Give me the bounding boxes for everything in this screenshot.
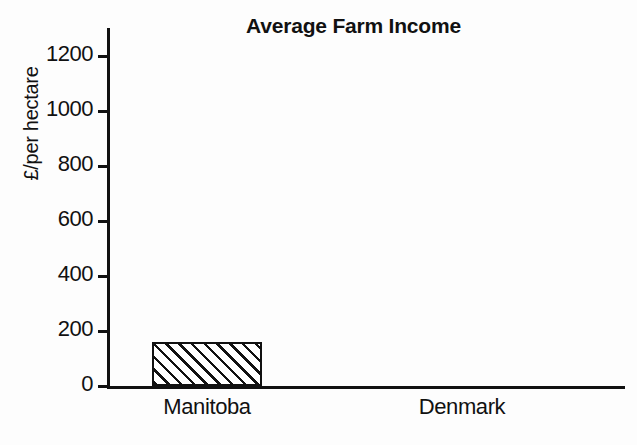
y-axis-tick-label: 1000 (9, 96, 93, 122)
y-axis-tick-label: 200 (9, 316, 93, 342)
y-axis-tick-label: 1200 (9, 41, 93, 67)
chart-page: Average Farm Income £/per hectare 020040… (0, 0, 637, 445)
y-axis-tick-label: 800 (9, 151, 93, 177)
y-axis-tick-label: 600 (9, 206, 93, 232)
y-axis-tick (98, 165, 108, 168)
y-axis-tick-label: 0 (9, 371, 93, 397)
x-axis-line (107, 386, 625, 389)
y-axis-tick (98, 385, 108, 388)
y-axis-line (107, 28, 110, 388)
y-axis-tick (98, 220, 108, 223)
x-axis-category-label: Denmark (372, 394, 552, 420)
y-axis-tick (98, 275, 108, 278)
y-axis-tick-label: 400 (9, 261, 93, 287)
y-axis-tick (98, 110, 108, 113)
x-axis-category-label: Manitoba (117, 394, 297, 420)
y-axis-tick (98, 55, 108, 58)
plot-area: 020040060080010001200 (107, 28, 625, 388)
bar-manitoba[interactable] (152, 342, 262, 386)
y-axis-tick (98, 330, 108, 333)
